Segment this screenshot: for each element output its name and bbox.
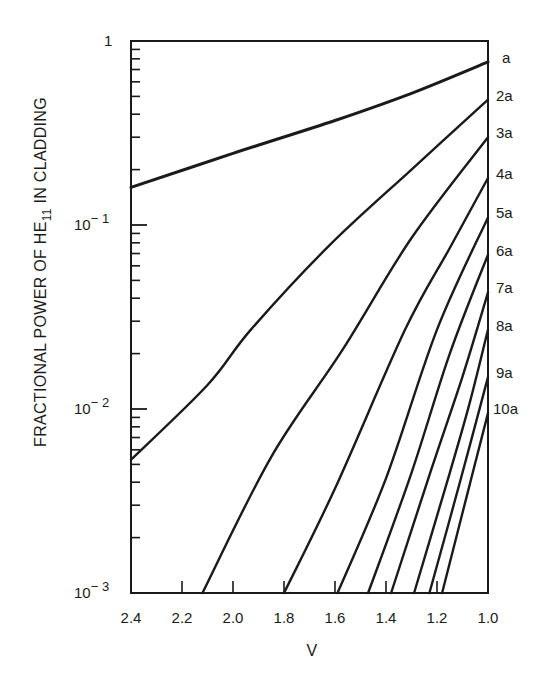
x-tick-label: 2.4 (121, 609, 142, 626)
curve-labels: a2a3a4a5a6a7a8a9a10a (493, 49, 519, 417)
curve-label-a: a (502, 49, 511, 66)
y-tick-label: 10− 1 (74, 211, 109, 233)
curve-label-6a: 6a (496, 242, 513, 259)
curve-label-3a: 3a (496, 124, 513, 141)
curves (131, 62, 488, 593)
x-tick-label: 2.0 (223, 609, 244, 626)
x-tick-label: 1.2 (427, 609, 448, 626)
x-tick-label: 1.4 (376, 609, 397, 626)
curve-label-5a: 5a (496, 204, 513, 221)
chart: a2a3a4a5a6a7a8a9a10a 110− 110− 210− 3 2.… (0, 0, 544, 680)
curve-9a (429, 377, 488, 593)
x-tick-label: 1.6 (325, 609, 346, 626)
curve-label-10a: 10a (493, 400, 519, 417)
curve-7a (391, 292, 488, 593)
curve-label-7a: 7a (496, 279, 513, 296)
y-axis-title-post: IN CLADDING (32, 97, 49, 208)
y-tick-label: 10− 2 (74, 395, 109, 417)
plot-frame (131, 41, 488, 593)
y-tick-labels: 110− 110− 210− 3 (74, 32, 112, 601)
y-axis-title-pre: FRACTIONAL POWER OF HE (32, 221, 49, 447)
x-tick-label: 2.2 (172, 609, 193, 626)
x-tick-labels: 2.42.22.01.81.61.41.21.0 (121, 609, 499, 626)
y-minor-ticks (131, 49, 140, 537)
curve-10a (442, 413, 488, 593)
y-axis-title-sub: 11 (40, 208, 54, 221)
x-tick-label: 1.8 (274, 609, 295, 626)
curve-label-9a: 9a (496, 364, 513, 381)
curve-a (131, 62, 488, 187)
x-tick-label: 1.0 (478, 609, 499, 626)
y-major-ticks (131, 225, 147, 409)
curve-label-8a: 8a (496, 317, 513, 334)
y-axis-title: FRACTIONAL POWER OF HE11 IN CLADDING (32, 97, 54, 447)
x-axis-title: V (307, 642, 318, 659)
curve-label-4a: 4a (496, 165, 513, 182)
curve-label-2a: 2a (496, 87, 513, 104)
curve-2a (131, 100, 488, 460)
y-tick-label: 10− 3 (74, 579, 109, 601)
y-tick-label: 1 (104, 32, 112, 49)
x-ticks (182, 581, 437, 593)
curve-5a (338, 217, 489, 593)
